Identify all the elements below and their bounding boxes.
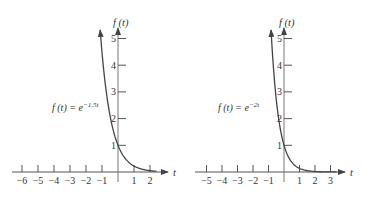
x-tick-label: −6 [17, 175, 28, 186]
x-tick-label: 3 [328, 175, 333, 186]
x-tick-label: −4 [49, 175, 60, 186]
x-tick-label: −1 [97, 175, 108, 186]
x-tick-label: −3 [232, 175, 243, 186]
y-tick-label: 5 [277, 33, 282, 44]
x-tick-label: 1 [297, 175, 302, 186]
chart-left: −6−5−4−3−2−112 12345 t f (t) f (t) = e−1… [12, 17, 177, 186]
x-tick-label: −5 [33, 175, 44, 186]
curve-exp-neg-1-5t [100, 30, 156, 171]
y-axis-title: f (t) [279, 17, 295, 29]
x-tick-label: −1 [263, 175, 274, 186]
x-axis-title: t [350, 167, 354, 178]
y-tick-label: 1 [111, 140, 116, 151]
x-ticks: −5−4−3−2−1123 [201, 165, 333, 186]
y-tick-label: 4 [277, 60, 282, 71]
chart-canvas: −6−5−4−3−2−112 12345 t f (t) f (t) = e−1… [0, 0, 365, 197]
y-tick-label: 3 [111, 86, 116, 97]
x-tick-label: −2 [81, 175, 92, 186]
x-tick-label: 1 [132, 175, 137, 186]
y-axis-title: f (t) [113, 17, 129, 29]
y-tick-label: 3 [277, 86, 282, 97]
function-label: f (t) = e−2t [218, 101, 260, 114]
x-tick-label: 2 [313, 175, 318, 186]
x-tick-label: −4 [217, 175, 228, 186]
x-tick-label: 2 [148, 175, 153, 186]
chart-right: −5−4−3−2−1123 12345 t f (t) f (t) = e−2t [195, 17, 354, 186]
x-tick-label: −3 [65, 175, 76, 186]
y-tick-label: 5 [111, 33, 116, 44]
svg-text:f (t) = e−1.5t: f (t) = e−1.5t [52, 101, 99, 114]
y-tick-label: 1 [277, 140, 282, 151]
x-ticks: −6−5−4−3−2−112 [17, 165, 153, 186]
function-label: f (t) = e−1.5t [52, 101, 99, 114]
x-tick-label: −5 [201, 175, 212, 186]
x-axis-title: t [173, 167, 177, 178]
svg-text:f (t) = e−2t: f (t) = e−2t [218, 101, 260, 114]
y-tick-label: 4 [111, 60, 116, 71]
x-tick-label: −2 [248, 175, 259, 186]
